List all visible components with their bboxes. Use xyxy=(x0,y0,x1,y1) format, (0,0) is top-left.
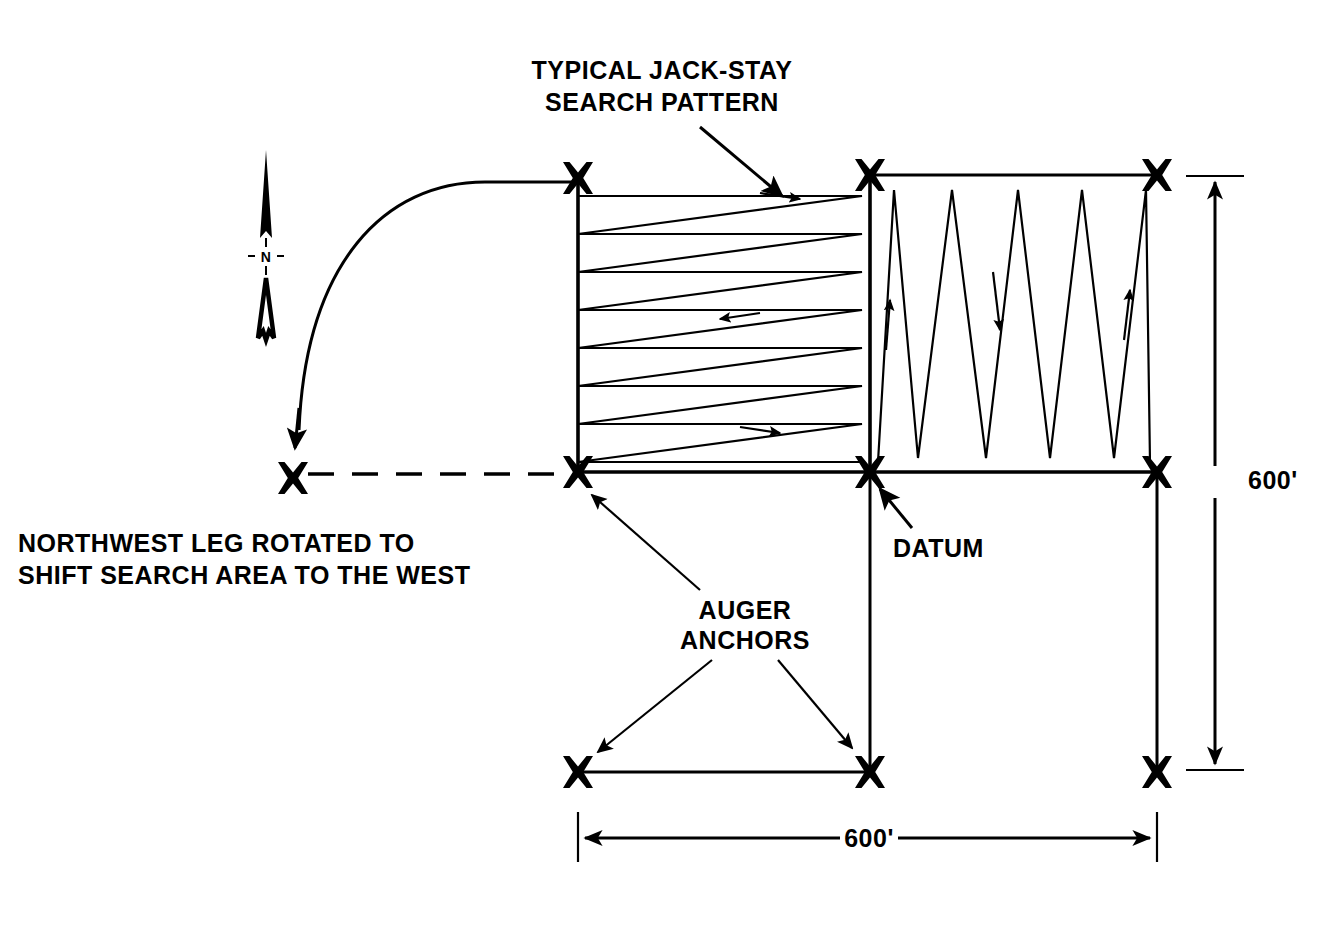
compass-south-needle xyxy=(258,278,274,340)
title-leader-arrow xyxy=(700,127,782,196)
datum-label: DATUM xyxy=(893,534,984,562)
auger-leader-to-west-anchor xyxy=(592,495,700,590)
west-zigzag-arrow-2 xyxy=(720,313,760,319)
east-zigzag-arrow-2 xyxy=(993,272,1000,330)
compass-rose: N xyxy=(248,150,284,340)
rotation-curve xyxy=(299,182,578,430)
compass-north-needle xyxy=(260,150,272,238)
rotation-curve-arrow xyxy=(295,408,299,448)
caption-line1: NORTHWEST LEG ROTATED TO xyxy=(18,529,415,557)
vertical-dimension-label: 600' xyxy=(1248,466,1298,494)
auger-leader-to-south-center-anchor xyxy=(778,660,852,748)
west-search-zigzag xyxy=(578,196,862,462)
auger-leader-to-south-west-anchor xyxy=(598,660,712,752)
compass-north-label: N xyxy=(261,249,272,265)
east-search-zigzag xyxy=(878,190,1150,462)
diagram-title-line2: SEARCH PATTERN xyxy=(545,88,779,116)
auger-anchors-label-line1: AUGER xyxy=(699,596,792,624)
datum-leader-arrow xyxy=(880,489,912,528)
west-zigzag-arrow-3 xyxy=(740,427,780,433)
diagram-canvas: TYPICAL JACK-STAY SEARCH PATTERN N xyxy=(0,0,1322,928)
auger-anchors-label-line2: ANCHORS xyxy=(680,626,810,654)
horizontal-dimension-label: 600' xyxy=(844,824,894,852)
diagram-title-line1: TYPICAL JACK-STAY xyxy=(532,56,793,84)
search-pattern-diagram: TYPICAL JACK-STAY SEARCH PATTERN N xyxy=(0,0,1322,928)
caption-line2: SHIFT SEARCH AREA TO THE WEST xyxy=(18,561,470,589)
anchor-marker-northwest-rotated xyxy=(278,462,308,494)
